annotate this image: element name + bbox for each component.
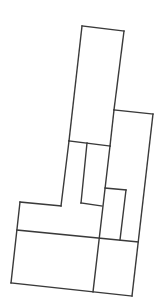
- wall-left-wing-left: [11, 202, 20, 283]
- floor-plan-lines: [11, 26, 153, 296]
- wall-right-block-top: [114, 110, 153, 114]
- wall-small-room-top: [105, 188, 126, 190]
- wall-corridor-mid: [81, 143, 87, 203]
- wall-tower-left: [69, 26, 82, 141]
- wall-left-wing-top: [20, 202, 61, 206]
- wall-tower-right: [114, 31, 124, 110]
- wall-tower-bottom: [69, 141, 110, 146]
- wall-inner-spine: [93, 146, 110, 292]
- floor-plan-diagram: [0, 0, 164, 305]
- wall-bottom-wall: [11, 283, 132, 296]
- wall-tower-top: [82, 26, 124, 31]
- wall-corridor-left: [61, 141, 69, 206]
- wall-small-room-right: [120, 190, 126, 240]
- wall-right-block-right: [132, 114, 153, 296]
- wall-mid-notch-top: [81, 203, 102, 206]
- wall-tower-right-lower: [110, 110, 114, 146]
